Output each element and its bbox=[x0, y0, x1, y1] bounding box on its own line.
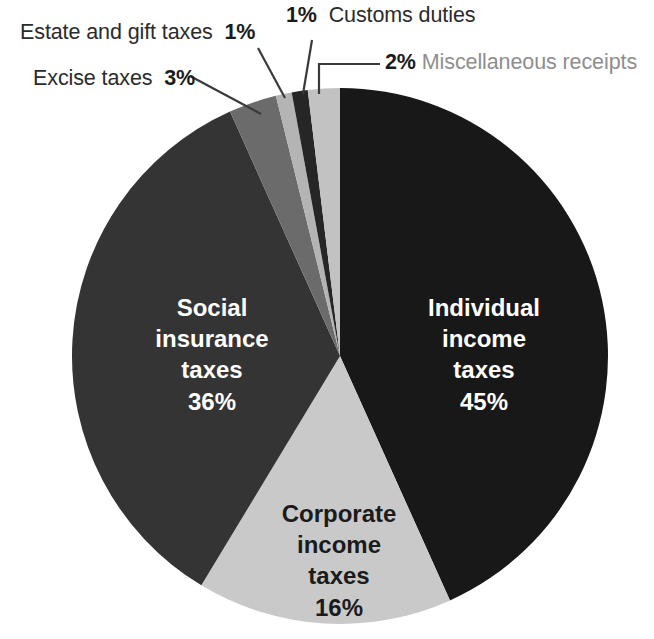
slice-label-social-insurance-taxes: Social insurance taxes 36% bbox=[128, 292, 296, 417]
slice-label-individual-income-taxes: Individual income taxes 45% bbox=[404, 292, 564, 417]
slice-label-corporate-income-taxes: Corporate income taxes 16% bbox=[256, 498, 422, 623]
callout-label-estate-and-gift-taxes: Estate and gift taxes 1% bbox=[20, 20, 255, 44]
slice-label-line-3: taxes bbox=[404, 354, 564, 385]
slice-label-percent: 36% bbox=[128, 386, 296, 417]
callout-label-miscellaneous-receipts: 2% Miscellaneous receipts bbox=[385, 50, 637, 74]
slice-label-percent: 45% bbox=[404, 386, 564, 417]
slice-label-line-1: Corporate bbox=[256, 498, 422, 529]
callout-pct-estate-and-gift-taxes: 1% bbox=[224, 20, 255, 44]
callout-pct-excise-taxes: 3% bbox=[164, 66, 195, 90]
callout-pct-customs-duties: 1% bbox=[286, 3, 317, 27]
slice-label-line-1: Social bbox=[128, 292, 296, 323]
slice-label-line-3: taxes bbox=[128, 354, 296, 385]
slice-label-line-2: income bbox=[256, 529, 422, 560]
slice-label-line-2: insurance bbox=[128, 323, 296, 354]
callout-name-customs-duties: Customs duties bbox=[329, 3, 476, 27]
leader-line-estate-and-gift-taxes bbox=[258, 48, 285, 98]
callout-name-miscellaneous-receipts: Miscellaneous receipts bbox=[422, 50, 637, 74]
pie-chart: Estate and gift taxes 1% Excise taxes 3%… bbox=[0, 0, 654, 639]
slice-label-line-2: income bbox=[404, 323, 564, 354]
slice-label-line-1: Individual bbox=[404, 292, 564, 323]
callout-name-estate-and-gift-taxes: Estate and gift taxes bbox=[20, 20, 213, 44]
callout-name-excise-taxes: Excise taxes bbox=[33, 66, 153, 90]
leader-line-customs-duties bbox=[303, 40, 312, 94]
leader-line-excise-taxes bbox=[190, 76, 261, 114]
callout-label-excise-taxes: Excise taxes 3% bbox=[33, 66, 195, 90]
callout-label-customs-duties: 1% Customs duties bbox=[286, 3, 475, 27]
slice-label-line-3: taxes bbox=[256, 560, 422, 591]
callout-pct-miscellaneous-receipts: 2% bbox=[385, 50, 416, 74]
slice-label-percent: 16% bbox=[256, 592, 422, 623]
